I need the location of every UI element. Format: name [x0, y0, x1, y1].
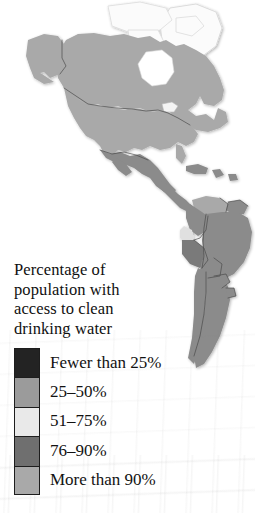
legend-row: 51–75% — [14, 407, 244, 436]
legend-swatch — [14, 407, 40, 436]
legend-title-line-2: population with — [14, 280, 184, 300]
map-figure: Percentage of population with access to … — [0, 0, 255, 513]
legend-label: 25–50% — [50, 382, 107, 402]
legend-label: Fewer than 25% — [50, 353, 161, 373]
legend-title-line-1: Percentage of — [14, 260, 184, 280]
legend-class-list: Fewer than 25% 25–50% 51–75% 76–90% More… — [14, 348, 244, 495]
legend-title: Percentage of population with access to … — [14, 260, 184, 338]
legend-row: Fewer than 25% — [14, 348, 244, 377]
legend-label: 76–90% — [50, 441, 107, 461]
legend-swatch — [14, 348, 40, 377]
legend-row: More than 90% — [14, 466, 244, 495]
legend-label: More than 90% — [50, 470, 156, 490]
legend-label: 51–75% — [50, 411, 107, 431]
legend-title-line-3: access to clean — [14, 299, 184, 319]
legend-swatch — [14, 436, 40, 465]
legend-swatch — [14, 377, 40, 406]
legend-row: 76–90% — [14, 436, 244, 465]
legend-title-line-4: drinking water — [14, 319, 184, 339]
legend-row: 25–50% — [14, 377, 244, 406]
legend-swatch — [14, 466, 40, 495]
